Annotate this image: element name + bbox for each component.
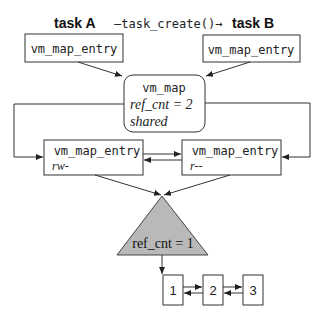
entry-b-box: vm_map_entry	[203, 35, 300, 62]
task-b-label: task B	[232, 15, 274, 31]
arrow-entry-rw-to-object	[95, 175, 161, 195]
vm-map-title: vm_map	[142, 81, 185, 95]
arrow-entry-a-to-vmmap	[78, 62, 122, 76]
page-2: 2	[203, 275, 223, 305]
vm-map-refcnt: ref_cnt = 2	[130, 97, 193, 112]
entry-r-perm: r--	[190, 159, 202, 173]
vm-map-status: shared	[130, 114, 169, 129]
page-2-label: 2	[209, 283, 216, 298]
arrow-entry-b-to-vmmap	[206, 62, 250, 76]
task-a-label: task A	[54, 15, 96, 31]
vm-map-diagram: task A —task_create()→ task B vm_map_ent…	[0, 0, 328, 325]
page-1: 1	[163, 275, 183, 305]
entry-rw-perm: rw-	[52, 159, 69, 173]
entry-rw-title: vm_map_entry	[54, 144, 141, 158]
entry-b-label: vm_map_entry	[208, 43, 295, 57]
entry-rw-box: vm_map_entry rw-	[44, 140, 143, 175]
arrow-entry-r-to-object	[164, 175, 230, 195]
entry-a-box: vm_map_entry	[25, 34, 123, 62]
entry-a-label: vm_map_entry	[31, 42, 118, 56]
page-3-label: 3	[249, 283, 256, 298]
vm-map-box: vm_map ref_cnt = 2 shared	[124, 75, 205, 132]
vm-object-triangle: ref_cnt = 1	[117, 196, 208, 255]
entry-r-title: vm_map_entry	[192, 144, 279, 158]
page-3: 3	[243, 275, 263, 305]
task-create-label: —task_create()→	[114, 17, 222, 31]
entry-r-box: vm_map_entry r--	[182, 140, 281, 175]
page-1-label: 1	[169, 283, 176, 298]
vm-object-refcnt: ref_cnt = 1	[132, 236, 194, 251]
